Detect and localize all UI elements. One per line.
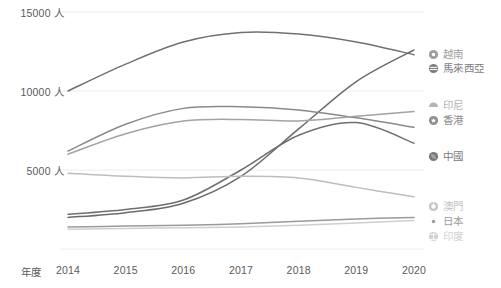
x-tick-label-2018: 2018 [287,264,311,276]
legend-item-label: 馬來西亞 [443,63,484,74]
x-tick-label-2014: 2014 [56,264,80,276]
series-line-5 [68,173,414,197]
y-tick-label: 15000 人 [20,5,64,20]
legend-item-越南[interactable]: 越南 [428,49,464,60]
legend-item-馬來西亞[interactable]: 馬來西亞 [428,63,484,74]
x-tick-label-2020: 2020 [402,264,426,276]
legend-item-印度[interactable]: 印度 [428,231,464,242]
chart-legend: 越南馬來西亞印尼香港中國澳門日本印度 [428,0,501,288]
legend-item-label: 日本 [443,216,464,227]
x-tick-label-2017: 2017 [229,264,253,276]
legend-item-label: 香港 [443,115,464,126]
series-line-7 [68,221,414,230]
circle-dot-icon [428,49,439,60]
x-tick-label-2016: 2016 [171,264,195,276]
legend-item-日本[interactable]: 日本 [428,216,464,227]
legend-item-label: 澳門 [443,201,464,212]
legend-item-label: 越南 [443,49,464,60]
chart-plot-area [0,0,501,288]
dot-icon [428,216,439,227]
circle-ring-icon [428,201,439,212]
legend-item-label: 印尼 [443,100,464,111]
x-tick-label-2019: 2019 [344,264,368,276]
series-lines [68,32,414,229]
circle-anchor-icon [428,231,439,242]
circle-solid-icon [428,151,439,162]
line-chart: 5000 人10000 人15000 人 2014201520162017201… [0,0,501,288]
legend-item-label: 印度 [443,231,464,242]
y-tick-label: 5000 人 [27,163,64,178]
series-line-1 [68,50,414,217]
series-line-3 [68,112,414,155]
legend-item-label: 中國 [443,151,464,162]
y-tick-label: 10000 人 [20,84,64,99]
series-line-2 [68,106,414,151]
x-tick-label-2015: 2015 [114,264,138,276]
series-line-0 [68,32,414,91]
x-axis-title: 年度 [21,264,41,279]
legend-item-澳門[interactable]: 澳門 [428,201,464,212]
circle-star-icon [428,115,439,126]
legend-item-中國[interactable]: 中國 [428,151,464,162]
legend-item-香港[interactable]: 香港 [428,115,464,126]
semicircle-icon [428,100,439,111]
circle-bars-icon [428,63,439,74]
legend-item-印尼[interactable]: 印尼 [428,100,464,111]
